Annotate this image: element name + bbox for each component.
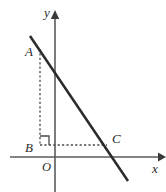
origin-label: O (42, 161, 51, 174)
point-label-a: A (25, 45, 33, 58)
point-label-b: B (25, 141, 33, 154)
right-angle-marker (40, 136, 49, 145)
x-axis-label: x (152, 162, 158, 175)
point-label-c: C (112, 132, 121, 145)
arrow-up-icon (51, 10, 59, 19)
y-axis-label: y (44, 6, 50, 19)
geometry-figure: y x O A B C (0, 0, 166, 192)
arrow-right-icon (158, 153, 166, 162)
figure-canvas (0, 0, 166, 192)
